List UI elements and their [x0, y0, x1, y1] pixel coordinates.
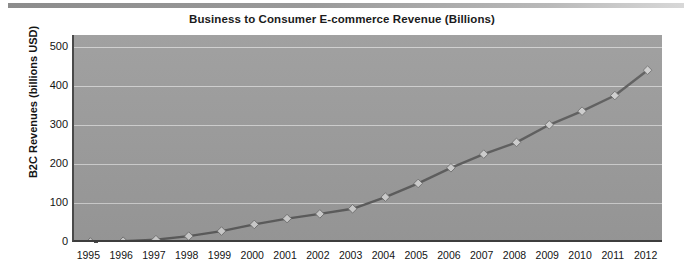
data-point-marker	[217, 227, 226, 236]
y-tick-label: 300	[28, 119, 68, 130]
data-point-marker	[184, 232, 193, 241]
y-tick-mark	[94, 242, 98, 243]
y-tick-label: 500	[28, 41, 68, 52]
data-point-marker	[119, 237, 128, 242]
data-point-marker	[512, 138, 521, 147]
data-point-marker	[316, 210, 325, 219]
data-point-marker	[578, 107, 587, 116]
data-point-marker	[447, 163, 456, 172]
chart-title: Business to Consumer E-commerce Revenue …	[0, 13, 684, 25]
data-point-marker	[250, 220, 259, 229]
y-tick-label: 400	[28, 80, 68, 91]
data-point-marker	[283, 214, 292, 223]
y-tick-label: 100	[28, 197, 68, 208]
series-line-b2c-revenues	[74, 35, 662, 242]
data-point-marker	[479, 150, 488, 159]
data-point-marker	[152, 235, 161, 242]
data-point-marker	[545, 121, 554, 130]
y-tick-label: 200	[28, 158, 68, 169]
data-point-marker	[348, 205, 357, 214]
series-polyline	[90, 70, 647, 242]
top-decorative-bar	[8, 3, 684, 8]
x-tick-label: 2012	[626, 249, 666, 261]
plot-area	[72, 35, 662, 242]
data-point-marker	[86, 238, 95, 242]
data-point-marker	[414, 179, 423, 188]
data-point-marker	[381, 193, 390, 202]
y-tick-label: 0	[28, 236, 68, 247]
y-axis-tick-labels: 0100200300400500	[26, 0, 68, 269]
